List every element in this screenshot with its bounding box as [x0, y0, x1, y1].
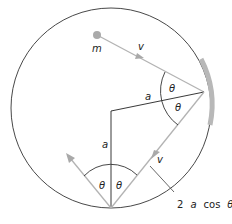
- radius-to-impact: [111, 92, 204, 111]
- theta-bottom-right: θ: [116, 180, 122, 191]
- chord-path: [111, 92, 204, 208]
- radius-label-top: a: [145, 91, 151, 102]
- chord-length-marker: [150, 166, 174, 192]
- mass-label: m: [92, 43, 102, 54]
- velocity-out-label: v: [157, 154, 164, 165]
- incoming-arrow-icon: [135, 53, 144, 59]
- chord-length-label: 2 a cos θ: [177, 194, 232, 211]
- particle-in-circle-diagram: m v θ θ a a v θ θ 2 a cos θ: [0, 0, 232, 224]
- theta-impact-upper: θ: [169, 83, 175, 94]
- theta-arc-impact: [161, 72, 178, 125]
- velocity-in-label: v: [138, 41, 145, 52]
- radius-label-left: a: [102, 139, 108, 150]
- mass-particle: [93, 31, 101, 39]
- theta-arc-bottom: [84, 164, 137, 176]
- theta-bottom-left: θ: [99, 180, 105, 191]
- theta-impact-lower: θ: [175, 102, 181, 113]
